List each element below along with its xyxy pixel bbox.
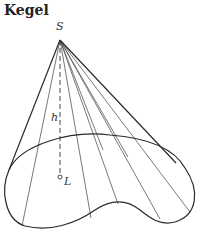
cone-diagram: S h L: [0, 0, 200, 233]
apex-label: S: [56, 20, 64, 33]
foot-label: L: [63, 175, 71, 188]
cone-silhouette: [9, 40, 176, 170]
cone-generators: [22, 40, 190, 226]
height-label: h: [51, 111, 58, 124]
foot-point: [58, 175, 62, 179]
